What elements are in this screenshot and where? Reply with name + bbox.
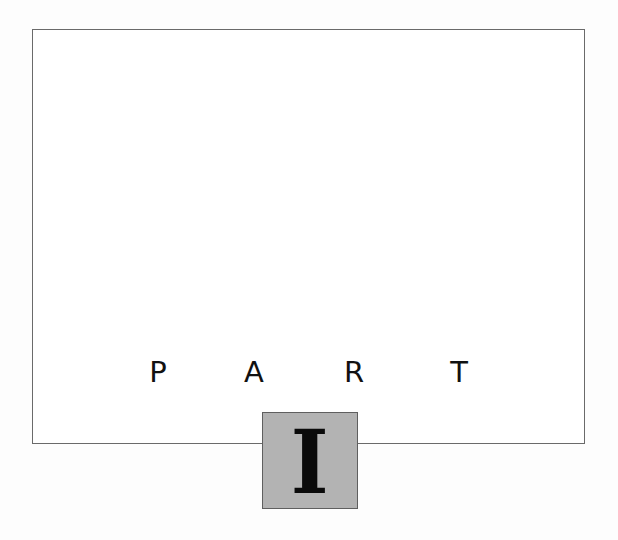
part-opener-page: P A R T I <box>0 0 618 540</box>
part-letter-p: P <box>138 354 178 390</box>
part-letter-t: T <box>439 354 479 390</box>
part-number-box: I <box>262 412 358 509</box>
part-label: P A R T <box>0 354 618 390</box>
part-numeral: I <box>291 418 329 506</box>
part-letter-r: R <box>334 354 374 390</box>
part-letter-a: A <box>234 354 274 390</box>
